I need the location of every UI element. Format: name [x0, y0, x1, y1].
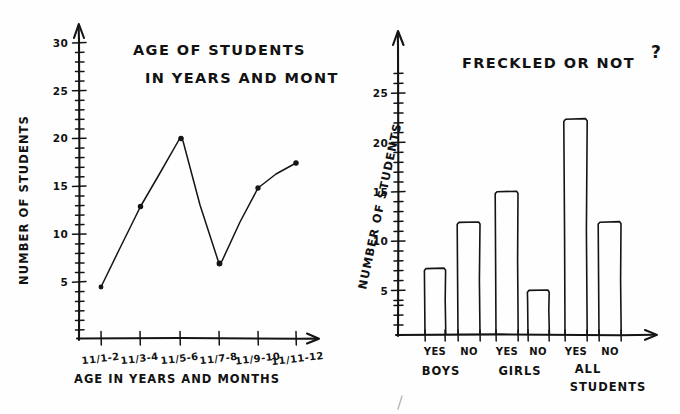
svg-text:STUDENTS: STUDENTS — [570, 380, 647, 394]
x-axis-bar-chart — [396, 330, 657, 340]
bar-category-labels: YES NO YES NO YES NO — [423, 346, 619, 357]
line-series-markers — [99, 136, 298, 289]
bar-girls-no — [527, 290, 549, 335]
line-chart-title-1: AGE OF STUDENTS — [133, 42, 306, 58]
bar-chart-title-question-mark: ? — [651, 42, 661, 62]
x-tick-labels-line-chart: 11/1-2 11/3-4 11/5-6 11/7-8 11/9-10 11/1… — [81, 350, 324, 367]
bar-all-yes — [564, 119, 587, 335]
svg-text:11/1-2: 11/1-2 — [81, 351, 120, 367]
svg-text:NO: NO — [601, 346, 619, 357]
bar-boys-no — [457, 222, 480, 335]
svg-text:11/7-8: 11/7-8 — [199, 351, 238, 367]
bar-girls-yes — [495, 191, 518, 334]
svg-text:25: 25 — [53, 85, 68, 97]
bar-group-labels: BOYS GIRLS ALL STUDENTS — [422, 362, 647, 394]
svg-text:YES: YES — [423, 346, 446, 357]
y-axis-label-line-chart: NUMBER OF STUDENTS — [17, 115, 31, 285]
svg-text:NO: NO — [529, 346, 547, 357]
line-chart-title-2: IN YEARS AND MONTHS — [145, 70, 340, 86]
svg-text:GIRLS: GIRLS — [498, 364, 541, 378]
svg-text:YES: YES — [564, 346, 587, 357]
svg-text:11/5-6: 11/5-6 — [160, 351, 199, 367]
svg-text:NO: NO — [460, 346, 478, 357]
handdrawn-charts-page: 5 10 15 20 25 30 NUMBER OF STUDENTS AGE … — [0, 0, 680, 414]
svg-text:5: 5 — [380, 285, 388, 297]
x-axis-label-line-chart: AGE IN YEARS AND MONTHS — [74, 372, 280, 386]
svg-text:BOYS: BOYS — [422, 364, 461, 378]
bar-group-girls — [495, 191, 549, 334]
y-tick-labels-line-chart: 5 10 15 20 25 30 — [53, 37, 68, 288]
svg-text:5: 5 — [60, 276, 68, 288]
chart-freckled-or-not: 5 10 15 20 25 NUMBER OF STUDENTS FRECKLE… — [340, 0, 680, 414]
svg-text:11/3-4: 11/3-4 — [120, 351, 159, 367]
x-axis-line-chart — [77, 334, 319, 344]
bar-chart-title: FRECKLED OR NOT — [462, 55, 635, 71]
line-series-age-of-students — [99, 136, 298, 289]
bar-group-boys — [424, 222, 480, 335]
stray-pencil-mark — [398, 396, 402, 409]
svg-text:25: 25 — [373, 87, 388, 99]
chart-age-of-students: 5 10 15 20 25 30 NUMBER OF STUDENTS AGE … — [0, 0, 340, 414]
bar-boys-yes — [424, 268, 445, 334]
svg-text:ALL: ALL — [575, 362, 602, 376]
svg-text:30: 30 — [53, 37, 68, 49]
svg-text:20: 20 — [53, 132, 68, 144]
svg-text:10: 10 — [53, 228, 68, 240]
svg-text:YES: YES — [495, 346, 518, 357]
bar-group-all-students — [564, 119, 621, 335]
svg-text:15: 15 — [53, 180, 68, 192]
bar-all-no — [598, 222, 621, 335]
